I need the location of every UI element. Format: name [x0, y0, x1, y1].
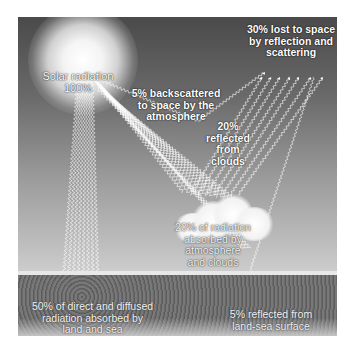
- absorbed-atmosphere-line3: atmosphere: [158, 245, 268, 257]
- sun-label-line2: 100%: [28, 83, 128, 95]
- lost-to-space-label: 30% lost to space by reflection and scat…: [236, 24, 337, 59]
- reflected-surface-label: 5% reflected from land-sea surface: [216, 309, 326, 332]
- absorbed-atmosphere-line1: 20% of radiation: [158, 222, 268, 234]
- reflected-clouds-line3: from: [198, 144, 258, 156]
- absorbed-land-label: 50% of direct and diffused radiation abs…: [20, 301, 165, 336]
- absorbed-atmosphere-line4: and clouds: [158, 257, 268, 269]
- reflected-clouds-label: 20% reflected from clouds: [198, 121, 258, 167]
- backscattered-line1: 5% backscattered: [121, 88, 231, 100]
- absorbed-atmosphere-label: 20% of radiation absorbed by atmosphere …: [158, 222, 268, 268]
- lost-to-space-line3: scattering: [236, 47, 337, 59]
- reflected-surface-line1: 5% reflected from: [216, 309, 326, 321]
- backscattered-label: 5% backscattered to space by the atmosph…: [121, 88, 231, 123]
- reflected-clouds-line1: 20%: [198, 121, 258, 133]
- sun-label: Solar radiation 100%: [28, 71, 128, 94]
- sun-label-line1: Solar radiation: [28, 71, 128, 83]
- absorbed-land-line3: land and sea: [20, 324, 165, 336]
- reflected-surface-line2: land-sea surface: [216, 321, 326, 333]
- reflected-clouds-line4: clouds: [198, 156, 258, 168]
- lost-to-space-line1: 30% lost to space: [236, 24, 337, 36]
- absorbed-land-line1: 50% of direct and diffused: [20, 301, 165, 313]
- solar-radiation-diagram: Solar radiation 100% 5% backscattered to…: [18, 17, 337, 336]
